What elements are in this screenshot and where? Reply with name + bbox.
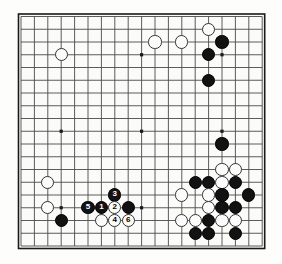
stone-number-label: 2 — [113, 203, 117, 211]
white-stone[interactable] — [202, 188, 215, 201]
stone-number-label: 4 — [113, 216, 117, 224]
stone-number-label: 5 — [86, 203, 90, 211]
go-board[interactable]: 351246 — [0, 0, 282, 264]
black-stone[interactable] — [189, 176, 202, 189]
stone-number-label: 1 — [99, 203, 103, 211]
black-stone[interactable] — [55, 214, 68, 227]
white-stone[interactable] — [229, 163, 242, 176]
move-stone-3[interactable]: 3 — [108, 188, 121, 201]
white-stone[interactable] — [175, 35, 188, 48]
white-stone[interactable] — [202, 23, 215, 36]
black-stone[interactable] — [229, 176, 242, 189]
white-stone[interactable] — [215, 176, 228, 189]
move-stone-5[interactable]: 5 — [81, 201, 94, 214]
black-stone[interactable] — [202, 227, 215, 240]
go-diagram-page: 351246 — [0, 0, 282, 264]
black-stone[interactable] — [215, 137, 228, 150]
white-stone[interactable] — [189, 214, 202, 227]
white-stone[interactable] — [148, 35, 161, 48]
white-stone[interactable] — [229, 214, 242, 227]
black-stone[interactable] — [242, 188, 255, 201]
black-stone[interactable] — [229, 227, 242, 240]
black-stone[interactable] — [202, 176, 215, 189]
black-stone[interactable] — [202, 74, 215, 87]
white-stone[interactable] — [215, 214, 228, 227]
white-stone[interactable] — [215, 163, 228, 176]
stone-number-label: 6 — [126, 216, 130, 224]
white-stone[interactable] — [55, 48, 68, 61]
black-stone[interactable] — [215, 201, 228, 214]
black-stone[interactable] — [215, 188, 228, 201]
white-stone[interactable] — [175, 188, 188, 201]
black-stone[interactable] — [189, 227, 202, 240]
move-stone-6[interactable]: 6 — [122, 214, 135, 227]
black-stone[interactable] — [215, 35, 228, 48]
white-stone[interactable] — [95, 214, 108, 227]
black-stone[interactable] — [122, 201, 135, 214]
stone-number-label: 3 — [113, 190, 117, 198]
